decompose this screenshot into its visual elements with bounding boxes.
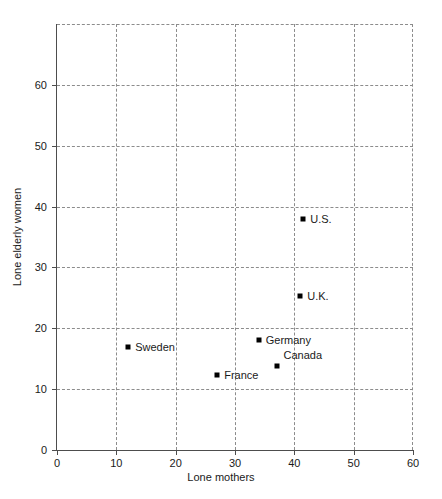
tick-label-y: 0 — [27, 444, 47, 456]
gridline-vertical — [354, 24, 355, 450]
y-axis-title: Lone elderly women — [8, 24, 26, 450]
tick-label-y: 60 — [27, 79, 47, 91]
tick-label-y: 50 — [27, 140, 47, 152]
gridline-vertical — [116, 24, 117, 450]
data-point-label: France — [224, 369, 258, 381]
gridline-vertical — [235, 24, 236, 450]
tick-label-x: 60 — [407, 457, 419, 469]
plot-right-border — [412, 24, 413, 450]
y-axis-line — [56, 24, 57, 451]
tick-label-x: 0 — [54, 457, 60, 469]
tick-label-x: 10 — [110, 457, 122, 469]
data-point-marker — [126, 344, 131, 349]
data-point-label: Sweden — [135, 341, 175, 353]
tick-x — [116, 450, 117, 455]
tick-label-y: 30 — [27, 261, 47, 273]
tick-y — [52, 267, 57, 268]
data-point-label: U.K. — [307, 290, 328, 302]
tick-label-y: 20 — [27, 322, 47, 334]
plot-area: 01020304050600102030405060 SwedenFranceG… — [57, 24, 413, 450]
tick-x — [235, 450, 236, 455]
tick-label-x: 20 — [170, 457, 182, 469]
tick-x — [57, 450, 58, 455]
gridline-horizontal — [57, 146, 413, 147]
tick-y — [52, 207, 57, 208]
gridline-horizontal — [57, 328, 413, 329]
gridline-horizontal — [57, 267, 413, 268]
tick-x — [354, 450, 355, 455]
data-point-marker — [274, 364, 279, 369]
gridline-vertical — [176, 24, 177, 450]
y-axis-title-text: Lone elderly women — [11, 188, 23, 286]
tick-label-y: 10 — [27, 383, 47, 395]
data-point-marker — [215, 373, 220, 378]
gridline-horizontal — [57, 389, 413, 390]
tick-label-y: 40 — [27, 201, 47, 213]
chart-page: Lone elderly women 010203040506001020304… — [0, 0, 442, 499]
tick-x — [294, 450, 295, 455]
x-axis-title: Lone mothers — [0, 471, 442, 483]
data-point-marker — [298, 294, 303, 299]
tick-label-x: 40 — [288, 457, 300, 469]
data-point-label: U.S. — [310, 213, 331, 225]
tick-y — [52, 450, 57, 451]
data-point-label: Germany — [266, 334, 311, 346]
tick-y — [52, 85, 57, 86]
tick-y — [52, 146, 57, 147]
tick-label-x: 30 — [229, 457, 241, 469]
gridline-vertical — [294, 24, 295, 450]
data-point-marker — [256, 338, 261, 343]
tick-x — [413, 450, 414, 455]
gridline-horizontal — [57, 207, 413, 208]
tick-y — [52, 328, 57, 329]
data-point-label: Canada — [284, 349, 323, 361]
tick-y — [52, 389, 57, 390]
gridline-horizontal — [57, 85, 413, 86]
tick-x — [176, 450, 177, 455]
tick-label-x: 50 — [348, 457, 360, 469]
data-point-marker — [301, 216, 306, 221]
